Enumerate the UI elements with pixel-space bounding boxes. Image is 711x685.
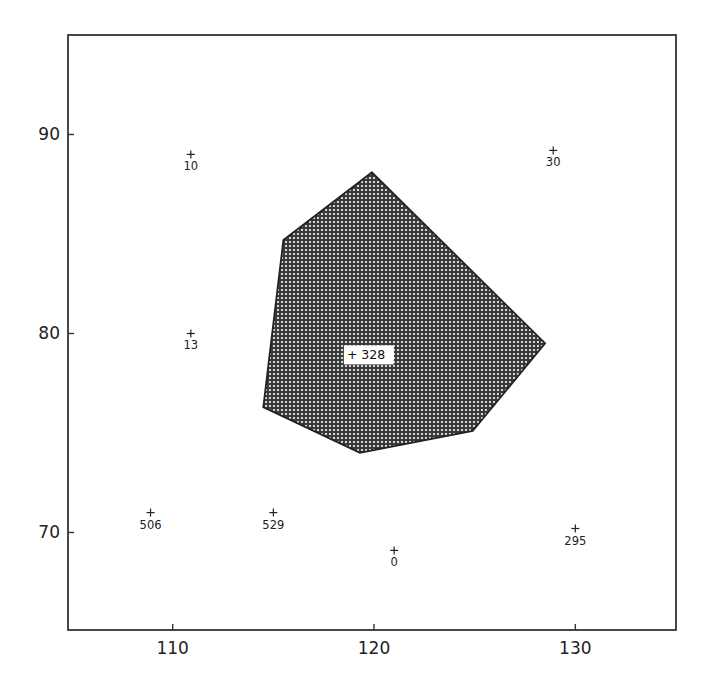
y-tick-label: 80 <box>38 323 60 343</box>
point-label: 0 <box>390 555 397 569</box>
hull-polygon <box>263 172 545 453</box>
point-label: 10 <box>183 159 198 173</box>
data-point: 30 <box>546 146 561 169</box>
hatched-region <box>263 172 545 453</box>
point-label: 295 <box>564 534 586 548</box>
y-tick-label: 70 <box>38 522 60 542</box>
point-label: 506 <box>140 518 162 532</box>
data-point: 529 <box>262 509 284 532</box>
data-point: 295 <box>564 525 586 548</box>
center-point-label: + 328 <box>347 347 385 362</box>
data-point: 0 <box>390 546 398 569</box>
data-point: 506 <box>140 509 162 532</box>
x-tick-label: 120 <box>358 638 390 658</box>
center-point: + 328 <box>344 345 394 364</box>
data-point: 13 <box>183 329 198 352</box>
point-label: 30 <box>546 155 561 169</box>
y-tick-label: 90 <box>38 124 60 144</box>
x-tick-label: 110 <box>156 638 188 658</box>
x-tick-label: 130 <box>559 638 591 658</box>
point-label: 529 <box>262 518 284 532</box>
scatter-chart: 110120130708090 1030135065290295 + 328 <box>0 0 711 685</box>
point-label: 13 <box>183 338 198 352</box>
data-point: 10 <box>183 150 198 173</box>
